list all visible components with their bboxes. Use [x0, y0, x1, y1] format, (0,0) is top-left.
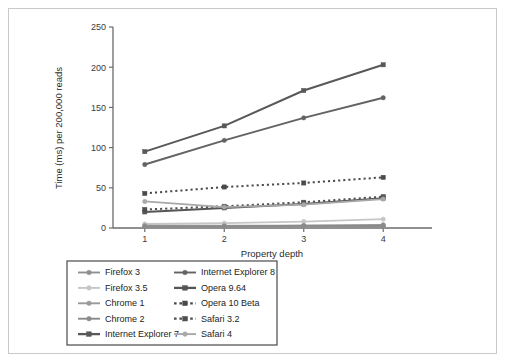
legend-swatch-marker [183, 301, 188, 306]
x-axis-title: Property depth [241, 248, 303, 259]
series-internet-explorer-7 [143, 63, 386, 154]
x-axis-tick-label: 2 [222, 234, 227, 244]
legend-item-label: Internet Explorer 8 [201, 267, 275, 277]
x-axis-tick-label: 4 [381, 234, 386, 244]
data-point [302, 181, 306, 185]
legend-item-label: Opera 9.64 [201, 283, 246, 293]
data-point [222, 124, 226, 128]
series-internet-explorer-8 [143, 96, 386, 167]
data-point [222, 138, 226, 142]
legend-item-label: Safari 4 [201, 329, 232, 339]
legend-swatch-marker [183, 286, 188, 291]
y-axis-tick-label: 0 [101, 223, 106, 233]
y-axis-title: Time (ms) per 200,000 reads [53, 67, 64, 189]
series-line [145, 197, 383, 210]
x-axis-tick-label: 3 [301, 234, 306, 244]
legend-item-label: Chrome 2 [105, 314, 145, 324]
y-axis-tick-label: 200 [91, 63, 106, 73]
y-axis-tick-label: 50 [96, 183, 106, 193]
legend-swatch-marker [87, 332, 92, 337]
line-chart: 050100150200250 1234 Time (ms) per 200,0… [0, 0, 505, 362]
data-point [143, 150, 147, 154]
data-point [381, 63, 385, 67]
y-axis-tick-labels: 050100150200250 [91, 22, 113, 233]
data-point [143, 191, 147, 195]
y-axis-tick-label: 150 [91, 103, 106, 113]
legend-swatch-marker [183, 270, 188, 275]
legend-swatch-marker [87, 270, 92, 275]
data-point [222, 185, 226, 189]
data-point [381, 217, 385, 221]
series-opera-10-beta [143, 175, 386, 195]
series-line [145, 219, 383, 224]
data-point [381, 175, 385, 179]
x-axis-tick-label: 1 [142, 234, 147, 244]
data-point [222, 205, 226, 209]
series-line [145, 65, 383, 152]
data-point [222, 224, 226, 228]
data-point [302, 116, 306, 120]
data-point [381, 96, 385, 100]
data-point [381, 223, 385, 227]
legend-swatch-marker [183, 316, 188, 321]
data-point [302, 219, 306, 223]
legend-swatch-marker [87, 316, 92, 321]
y-axis-tick-label: 250 [91, 22, 106, 32]
legend-swatch-marker [87, 286, 92, 291]
legend-item-label: Internet Explorer 7 [105, 329, 179, 339]
x-axis-tick-labels: 1234 [142, 228, 385, 244]
data-point [302, 223, 306, 227]
data-point [143, 207, 147, 211]
data-point [143, 224, 147, 228]
series-line [145, 177, 383, 193]
legend-item-label: Safari 3.2 [201, 314, 240, 324]
series-line [145, 226, 383, 227]
chart-figure: 050100150200250 1234 Time (ms) per 200,0… [0, 0, 505, 362]
legend-swatch-marker [87, 301, 92, 306]
legend-item-label: Opera 10 Beta [201, 298, 260, 308]
chart-legend: Firefox 3Firefox 3.5Chrome 1Chrome 2Inte… [67, 261, 277, 345]
y-axis-tick-label: 100 [91, 143, 106, 153]
legend-item-label: Firefox 3.5 [105, 283, 148, 293]
data-point [302, 88, 306, 92]
legend-swatch-marker [183, 332, 188, 337]
legend-item-label: Chrome 1 [105, 298, 145, 308]
legend-item-label: Firefox 3 [105, 267, 140, 277]
data-series-layer [143, 63, 386, 229]
data-point [381, 197, 385, 201]
data-point [302, 202, 306, 206]
data-point [143, 199, 147, 203]
data-point [143, 162, 147, 166]
